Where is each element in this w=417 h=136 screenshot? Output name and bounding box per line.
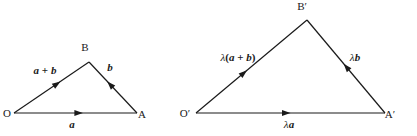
vector-glyph: a [69,118,75,130]
vertex-label-triangle-left-origin: O [3,107,11,119]
vertex-label-triangle-right-origin: O′ [180,107,190,119]
vector-diagram-figure: aa + bbOABλaλ(a + b)λbO′A′B′ [0,0,417,136]
figure-canvas: aa + bbOABλaλ(a + b)λbO′A′B′ [0,0,417,136]
vector-glyph: a [229,51,237,63]
operator-glyph: ) [252,51,256,64]
vertex-label-triangle-left-b_end: B [81,41,88,53]
vector-label-edge-lambda-a-plus-b: λ(a + b) [220,51,256,64]
vertex-label-triangle-right-b_end: B′ [297,0,307,12]
vector-glyph: a [289,118,295,130]
vector-glyph: b [107,61,113,73]
vector-glyph: a [34,64,42,76]
vector-glyph: b [355,51,361,63]
vector-label-edge-b: b [107,61,113,73]
vector-label-edge-lambda-a: λa [283,118,295,130]
arrowhead-edge-lambda-a [282,110,291,116]
vertex-label-triangle-right-a_end: A′ [385,108,395,120]
arrowhead-edge-a [74,110,83,116]
diagram-geometry-group: aa + bbOABλaλ(a + b)λbO′A′B′ [3,0,395,130]
vector-glyph: b [48,64,57,76]
vector-label-edge-lambda-b: λb [349,51,361,63]
vertex-label-triangle-left-a_end: A [138,108,146,120]
edge-line-edge-lambda-a-plus-b [196,20,307,113]
arrowhead-edge-a-plus-b [52,81,61,88]
vector-label-edge-a-plus-b: a + b [34,64,57,76]
scaled-vector-triangle: λaλ(a + b)λbO′A′B′ [180,0,395,130]
original-vector-triangle: aa + bbOAB [3,41,146,130]
vector-label-edge-a: a [69,118,75,130]
